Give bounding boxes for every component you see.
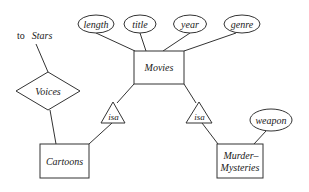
- relationship-voices: Voices: [16, 72, 80, 110]
- entity-cartoons: Cartoons: [40, 144, 89, 178]
- line-voices-cartoons: [50, 110, 56, 144]
- attribute-weapon: weapon: [250, 109, 292, 131]
- attribute-label: weapon: [255, 115, 286, 126]
- isa-cartoons: isa: [101, 102, 125, 123]
- isa-label: isa: [194, 112, 205, 122]
- attribute-label: genre: [231, 19, 254, 30]
- line-movies-isa-left: [117, 84, 134, 103]
- line-year-movies: [163, 33, 190, 51]
- line-length-movies: [96, 33, 135, 51]
- attribute-year: year: [174, 15, 207, 33]
- line-genre-movies: [184, 33, 236, 51]
- attribute-title: title: [124, 15, 156, 33]
- relationship-label: Voices: [35, 86, 61, 97]
- entity-label-line2: Mysteries: [220, 162, 260, 173]
- entity-label-line1: Murder–: [222, 150, 259, 161]
- attribute-length: length: [78, 15, 114, 33]
- entity-movies: Movies: [134, 51, 184, 84]
- entity-murder-mysteries: Murder– Mysteries: [217, 144, 263, 178]
- attribute-label: length: [84, 19, 109, 30]
- line-isa-right-mysteries: [202, 123, 218, 144]
- line-isa-left-cartoons: [89, 123, 112, 144]
- line-weapon-mysteries: [254, 131, 266, 144]
- external-ref-stars: to Stars: [17, 25, 52, 42]
- entity-label: Movies: [144, 62, 174, 73]
- attribute-label: year: [180, 19, 199, 30]
- isa-label: isa: [108, 112, 119, 122]
- line-movies-isa-right: [184, 84, 196, 103]
- attribute-genre: genre: [224, 15, 260, 33]
- line-stars-voices: [36, 44, 48, 72]
- external-ref-prefix: to: [17, 30, 25, 41]
- entity-label: Cartoons: [46, 156, 83, 167]
- er-diagram: length title year genre weapon to Stars …: [0, 0, 309, 192]
- isa-murder-mysteries: isa: [186, 102, 212, 123]
- external-ref-target: Stars: [32, 30, 53, 41]
- line-title-movies: [140, 33, 146, 51]
- attribute-label: title: [132, 19, 148, 30]
